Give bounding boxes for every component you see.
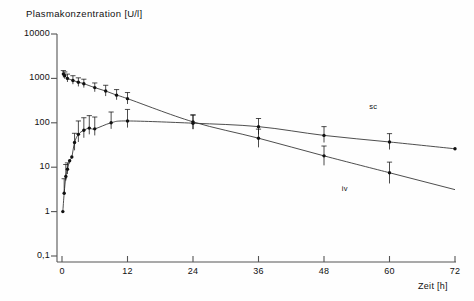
y-tick-label-1: 1000 (0, 72, 50, 82)
x-tick-label-1: 12 (112, 266, 144, 276)
data-point (109, 121, 112, 124)
x-axis-title-unit: [h] (434, 281, 448, 291)
plot-canvas (0, 0, 474, 301)
data-point (66, 77, 69, 80)
y-tick-label-2: 100 (0, 117, 50, 127)
data-point (388, 140, 391, 143)
x-tick-label-3: 36 (243, 266, 275, 276)
error-bar (109, 112, 114, 129)
data-point (64, 175, 67, 178)
data-point (62, 191, 65, 194)
data-point (71, 79, 74, 82)
x-tick-label-6: 72 (439, 266, 471, 276)
error-bar (76, 121, 81, 142)
data-point (66, 168, 69, 171)
series-iv (61, 71, 455, 190)
data-point (63, 74, 66, 77)
data-point (61, 210, 64, 213)
data-point (257, 125, 260, 128)
series-sc (61, 109, 457, 213)
x-axis-title: Zeit [h] (418, 281, 448, 291)
data-point (82, 82, 85, 85)
data-point (453, 147, 456, 150)
series-line-extension-iv (390, 173, 456, 190)
data-point (93, 127, 96, 130)
data-point (68, 159, 71, 162)
error-bar (62, 179, 67, 193)
data-point (191, 121, 194, 124)
data-point (73, 141, 76, 144)
y-tick-label-3: 10 (0, 161, 50, 171)
data-point (104, 89, 107, 92)
data-point (388, 171, 391, 174)
error-bar (92, 117, 97, 135)
chart-root: Plasmakonzentration [U/l] 10000100010010… (0, 0, 474, 301)
y-tick-label-0: 10000 (0, 28, 50, 38)
y-tick-label-4: 1 (0, 206, 50, 216)
data-point (322, 154, 325, 157)
x-tick-label-2: 24 (177, 266, 209, 276)
data-point (88, 126, 91, 129)
x-tick-label-5: 60 (374, 266, 406, 276)
error-bar (81, 118, 86, 138)
data-point (322, 134, 325, 137)
error-bar (87, 116, 92, 135)
series-annotation-sc: sc (369, 102, 377, 111)
series-line-sc (63, 121, 455, 212)
x-tick-label-0: 0 (46, 266, 78, 276)
series-annotation-iv: iv (342, 184, 348, 193)
data-point (77, 133, 80, 136)
data-point (93, 86, 96, 89)
data-point (126, 97, 129, 100)
data-point (77, 81, 80, 84)
data-point (126, 119, 129, 122)
data-point (257, 137, 260, 140)
y-tick-label-5: 0,1 (0, 250, 50, 260)
data-point (115, 93, 118, 96)
error-bar (125, 109, 130, 127)
x-tick-label-4: 48 (308, 266, 340, 276)
x-axis-title-text: Zeit (418, 281, 434, 291)
data-point (70, 155, 73, 158)
data-point (82, 129, 85, 132)
